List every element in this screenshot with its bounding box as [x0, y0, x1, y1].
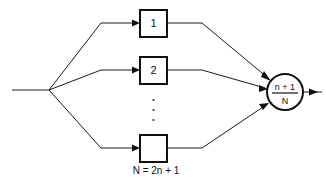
branch-2-output-wire: [167, 70, 265, 88]
voter-numerator: n + 1: [275, 82, 295, 92]
output-arrowhead-icon: [309, 89, 318, 96]
branch-n-arrowhead-icon: [132, 145, 140, 152]
block-1-label: 1: [150, 17, 156, 29]
vertical-ellipsis-icon: [152, 99, 154, 121]
ellipsis-dot: [152, 109, 154, 111]
branch-1-input-wire: [49, 23, 136, 90]
output-line-group: [303, 89, 322, 96]
branch-n-input-wire: [49, 90, 136, 148]
majority-voter[interactable]: n + 1 N: [267, 74, 303, 110]
branch-input-arrowheads: [132, 20, 140, 152]
fanout-wires: [49, 23, 136, 148]
ellipsis-dot: [152, 99, 154, 101]
diagram-canvas: 1 2: [0, 0, 326, 189]
block-2-label: 2: [150, 64, 156, 76]
branch-n-output-wire: [167, 105, 266, 148]
block-2[interactable]: 2: [140, 57, 167, 84]
diagram-svg: 1 2: [0, 0, 326, 189]
ellipsis-dot: [152, 119, 154, 121]
diagram-caption: N = 2n + 1: [133, 165, 180, 176]
branch-1-arrowhead-icon: [132, 20, 140, 27]
fanin-wires: [167, 23, 268, 148]
block-n-rect[interactable]: [140, 135, 167, 162]
block-n[interactable]: [140, 135, 167, 162]
voter-denominator: N: [282, 96, 289, 106]
voter-input-1-arrowhead-icon: [261, 71, 271, 81]
block-1[interactable]: 1: [140, 10, 167, 37]
branch-2-arrowhead-icon: [132, 67, 140, 74]
